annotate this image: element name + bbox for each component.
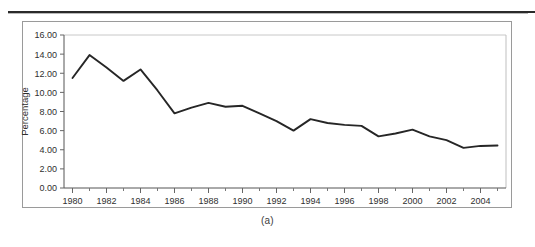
y-axis-tick-label: 2.00 bbox=[39, 164, 57, 174]
x-axis-tick-label: 1980 bbox=[62, 196, 82, 206]
line-chart: 16.0014.0012.0010.008.006.004.002.000.00… bbox=[0, 0, 535, 215]
x-axis-tick-label: 2004 bbox=[470, 196, 490, 206]
x-axis-tick-label: 1998 bbox=[368, 196, 388, 206]
x-axis-tick-label: 1994 bbox=[300, 196, 320, 206]
x-axis-tick-label: 1988 bbox=[198, 196, 218, 206]
chart-canvas: 16.0014.0012.0010.008.006.004.002.000.00… bbox=[0, 0, 535, 215]
data-series-line bbox=[73, 55, 498, 148]
y-axis-tick-label: 8.00 bbox=[39, 107, 57, 117]
x-axis-tick-label: 1984 bbox=[130, 196, 150, 206]
y-axis-tick-label: 10.00 bbox=[34, 88, 57, 98]
x-axis-tick-label: 1986 bbox=[164, 196, 184, 206]
y-axis-tick-label: 16.00 bbox=[34, 30, 57, 40]
y-axis-tick-label: 14.00 bbox=[34, 50, 57, 60]
y-axis-title: Percentage bbox=[19, 87, 30, 136]
figure-caption: (a) bbox=[0, 215, 535, 226]
y-axis-tick-label: 4.00 bbox=[39, 145, 57, 155]
x-axis-tick-label: 1990 bbox=[232, 196, 252, 206]
x-axis-tick-label: 2000 bbox=[402, 196, 422, 206]
y-axis-tick-label: 6.00 bbox=[39, 126, 57, 136]
x-axis-tick-label: 2002 bbox=[436, 196, 456, 206]
y-axis-tick-label: 0.00 bbox=[39, 183, 57, 193]
y-axis-tick-label: 12.00 bbox=[34, 69, 57, 79]
x-axis-tick-label: 1982 bbox=[96, 196, 116, 206]
x-axis-tick-label: 1996 bbox=[334, 196, 354, 206]
x-axis-tick-label: 1992 bbox=[266, 196, 286, 206]
